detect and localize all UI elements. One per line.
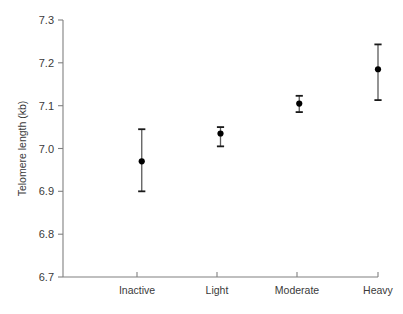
data-point-marker	[375, 66, 381, 72]
y-tick-label: 6.9	[39, 185, 54, 197]
chart-background	[0, 0, 403, 314]
telomere-length-chart: 7.3 7.2 7.1 7.0 6.9 6.8 6.7 Telomere len…	[0, 0, 403, 314]
y-tick-label: 7.2	[39, 57, 54, 69]
y-tick-label: 7.0	[39, 143, 54, 155]
x-tick-label-inactive: Inactive	[119, 284, 155, 296]
y-tick-label: 7.1	[39, 100, 54, 112]
chart-canvas: 7.3 7.2 7.1 7.0 6.9 6.8 6.7 Telomere len…	[0, 0, 403, 314]
data-point-marker	[296, 100, 302, 106]
y-tick-label: 6.7	[39, 271, 54, 283]
x-tick-label-light: Light	[206, 284, 229, 296]
x-tick-label-heavy: Heavy	[363, 284, 394, 296]
y-axis-title: Telomere length (kb)	[16, 101, 28, 197]
data-point-marker	[139, 158, 145, 164]
x-tick-label-moderate: Moderate	[275, 284, 320, 296]
y-tick-label: 6.8	[39, 228, 54, 240]
y-tick-label: 7.3	[39, 14, 54, 26]
data-point-marker	[217, 130, 223, 136]
